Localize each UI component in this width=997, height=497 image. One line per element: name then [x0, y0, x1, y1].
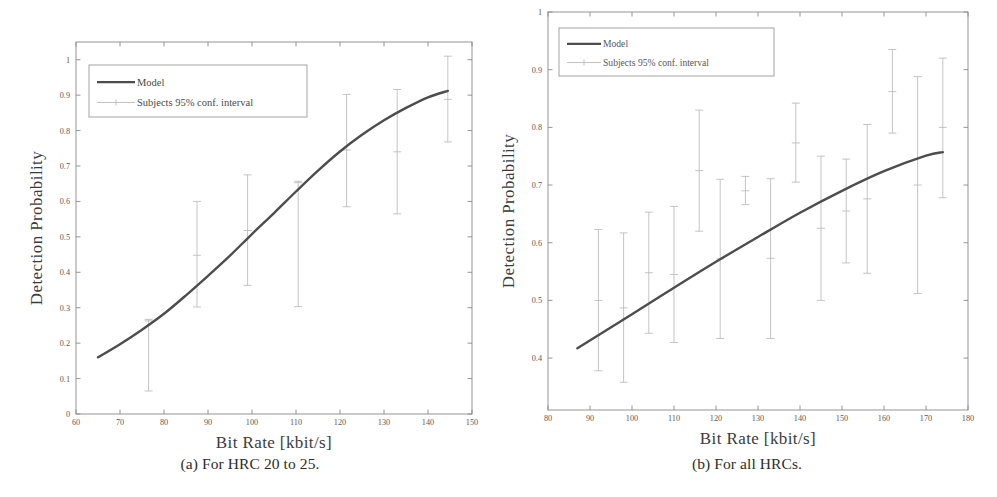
- y-tick-label: 0.3: [60, 304, 70, 313]
- y-tick-label: 0.9: [532, 66, 542, 75]
- chart-b-svg: 80901001101201301401501601701800.40.50.6…: [497, 0, 997, 455]
- legend-label-errorbar: Subjects 95% conf. interval: [603, 57, 709, 68]
- x-tick-label: 110: [668, 414, 680, 423]
- y-tick-label: 0.6: [60, 197, 70, 206]
- y-tick-label: 0.4: [60, 268, 70, 277]
- y-tick-label: 0.2: [60, 339, 70, 348]
- x-tick-label: 130: [752, 414, 764, 423]
- x-tick-label: 140: [794, 414, 806, 423]
- x-tick-label: 90: [204, 418, 212, 427]
- y-tick-label: 0.5: [532, 296, 542, 305]
- x-tick-label: 140: [422, 418, 434, 427]
- y-tick-label: 0.9: [60, 91, 70, 100]
- legend-box: [89, 65, 307, 117]
- errorbar-series: [594, 49, 946, 382]
- legend-label-model: Model: [603, 38, 628, 49]
- y-tick-label: 0.6: [532, 239, 542, 248]
- x-tick-label: 150: [836, 414, 848, 423]
- x-tick-label: 70: [116, 418, 124, 427]
- figure-panel-b: 80901001101201301401501601701800.40.50.6…: [497, 0, 997, 497]
- y-tick-label: 0.7: [60, 162, 70, 171]
- x-axis-title: Bit Rate [kbit/s]: [700, 429, 816, 448]
- x-tick-label: 60: [72, 418, 80, 427]
- x-tick-label: 150: [466, 418, 478, 427]
- legend-label-model: Model: [137, 77, 164, 88]
- chart-legend: ModelSubjects 95% conf. interval: [89, 65, 307, 117]
- chart-a-svg: 6070809010011012013014015000.10.20.30.40…: [0, 0, 500, 455]
- x-tick-label: 120: [710, 414, 722, 423]
- y-tick-label: 0: [66, 410, 70, 419]
- y-tick-label: 1: [66, 56, 70, 65]
- x-tick-label: 160: [878, 414, 890, 423]
- figure-root: 6070809010011012013014015000.10.20.30.40…: [0, 0, 997, 497]
- y-tick-label: 0.8: [60, 127, 70, 136]
- legend-box: [559, 28, 774, 76]
- y-axis-title: Detection Probability: [27, 151, 46, 305]
- x-tick-label: 100: [626, 414, 638, 423]
- x-axis-title: Bit Rate [kbit/s]: [216, 433, 332, 452]
- model-line: [98, 91, 448, 357]
- x-tick-label: 80: [544, 414, 552, 423]
- legend-label-errorbar: Subjects 95% conf. interval: [137, 97, 253, 108]
- y-tick-label: 1: [538, 8, 542, 17]
- x-tick-label: 80: [160, 418, 168, 427]
- x-tick-label: 170: [920, 414, 932, 423]
- y-tick-label: 0.4: [532, 354, 542, 363]
- chart-legend: ModelSubjects 95% conf. interval: [559, 28, 774, 76]
- y-axis-title: Detection Probability: [499, 134, 518, 288]
- y-tick-label: 0.8: [532, 123, 542, 132]
- x-tick-label: 120: [334, 418, 346, 427]
- y-tick-label: 0.7: [532, 181, 542, 190]
- figure-panel-a: 6070809010011012013014015000.10.20.30.40…: [0, 0, 500, 497]
- panel-b-caption: (b) For all HRCs.: [497, 455, 997, 473]
- x-tick-label: 90: [586, 414, 594, 423]
- x-tick-label: 100: [246, 418, 258, 427]
- panel-a-caption: (a) For HRC 20 to 25.: [0, 455, 500, 473]
- y-tick-label: 0.1: [60, 375, 70, 384]
- y-tick-label: 0.5: [60, 233, 70, 242]
- x-tick-label: 180: [962, 414, 974, 423]
- x-tick-label: 110: [290, 418, 302, 427]
- x-tick-label: 130: [378, 418, 390, 427]
- model-line: [577, 152, 942, 348]
